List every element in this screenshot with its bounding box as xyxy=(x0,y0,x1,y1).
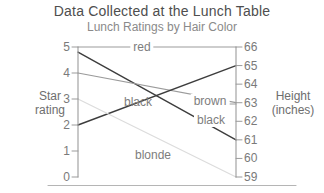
left-axis-tick-label-1: 1 xyxy=(46,145,70,157)
right-axis-tick-label-61: 61 xyxy=(244,134,268,146)
right-axis-tick-label-60: 60 xyxy=(244,152,268,164)
right-axis-title: Height (inches) xyxy=(263,89,323,117)
right-axis-tick-label-65: 65 xyxy=(244,60,268,72)
lunch-table-chart: Data Collected at the Lunch Table Lunch … xyxy=(0,0,324,193)
right-axis-tick-label-64: 64 xyxy=(244,78,268,90)
series-label-brown-2: brown xyxy=(191,94,230,108)
series-label-black-1: black xyxy=(194,113,228,127)
series-label-red-0: red xyxy=(130,40,153,54)
left-axis-tick-label-2: 2 xyxy=(46,119,70,131)
right-axis-title-line1: Height xyxy=(263,89,323,103)
right-axis-tick-label-59: 59 xyxy=(244,171,268,183)
left-axis-tick-label-3: 3 xyxy=(46,93,70,105)
left-axis-tick-label-4: 4 xyxy=(46,67,70,79)
left-axis-tick-label-5: 5 xyxy=(46,41,70,53)
left-axis-tick-label-0: 0 xyxy=(46,171,70,183)
series-label-black-3: black xyxy=(121,95,155,109)
series-label-blonde-4: blonde xyxy=(132,148,174,162)
right-axis-tick-label-62: 62 xyxy=(244,115,268,127)
series-line-blonde-4 xyxy=(78,99,236,177)
right-axis-tick-label-63: 63 xyxy=(244,97,268,109)
right-axis-tick-label-66: 66 xyxy=(244,41,268,53)
right-axis-title-line2: (inches) xyxy=(263,103,323,117)
